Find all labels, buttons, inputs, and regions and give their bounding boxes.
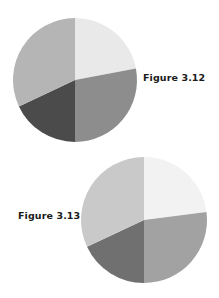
pie-charts-canvas (0, 0, 219, 298)
pie-slice (75, 68, 137, 142)
figure-3-13-caption: Figure 3.13 (18, 210, 80, 221)
pie-slice (144, 157, 207, 220)
pie-slice (144, 212, 207, 283)
pie-chart-figure-3-12 (13, 18, 137, 142)
figure-3-12-caption: Figure 3.12 (143, 72, 205, 83)
pie-chart-figure-3-13 (81, 157, 207, 283)
